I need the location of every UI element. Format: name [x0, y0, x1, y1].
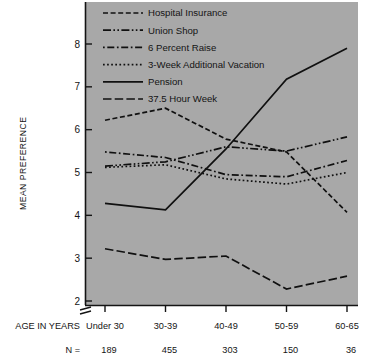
n-row-label: N = [65, 345, 80, 355]
legend-label: 3-Week Additional Vacation [148, 59, 264, 70]
x-axis-row-label: AGE IN YEARS [15, 321, 80, 331]
x-tick-label: 50-59 [275, 321, 299, 331]
legend-label: 6 Percent Raise [148, 42, 216, 53]
y-tick-label: 3 [74, 253, 80, 264]
legend-label: Union Shop [148, 25, 198, 36]
y-tick-label: 7 [74, 81, 80, 92]
x-tick-label: 30-39 [154, 321, 178, 331]
x-tick-label-group: Under 3030-3940-4950-5960-65 [86, 321, 359, 331]
y-axis-title: MEAN PREFERENCE [18, 117, 28, 210]
n-value: 150 [283, 345, 298, 355]
legend-label: 37.5 Hour Week [148, 93, 217, 104]
y-tick-label: 6 [74, 124, 80, 135]
y-tick-label: 5 [74, 167, 80, 178]
n-value: 189 [101, 345, 116, 355]
y-axis-break [80, 307, 91, 314]
n-value: 36 [346, 345, 356, 355]
n-value: 303 [222, 345, 237, 355]
y-tick-label: 4 [74, 210, 80, 221]
mean-preference-line-chart: 2345678 MEAN PREFERENCE Hospital Insuran… [0, 0, 370, 361]
x-tick-label: Under 30 [86, 321, 124, 331]
y-tick-label: 8 [74, 39, 80, 50]
n-value-group: 18945530315036 [101, 345, 356, 355]
legend-label: Hospital Insurance [148, 7, 227, 18]
y-tick-label: 2 [74, 296, 80, 307]
n-value: 455 [162, 345, 177, 355]
x-tick-label: 60-65 [335, 321, 359, 331]
legend-label: Pension [148, 76, 183, 87]
x-tick-label: 40-49 [214, 321, 238, 331]
